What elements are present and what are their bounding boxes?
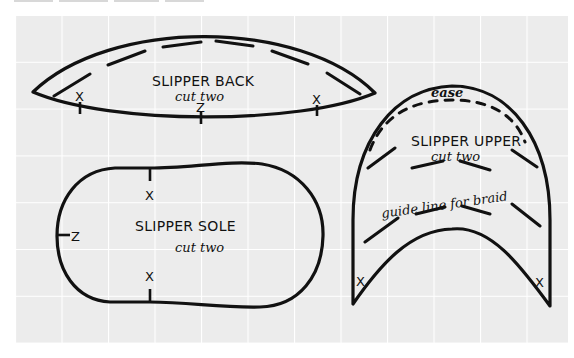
slipper-back-mark-x-left: X [75,89,84,104]
slipper-sole-mark-x-bottom: X [145,269,154,284]
slipper-back-subtitle: cut two [175,89,224,104]
slipper-sole-mark-z: Z [71,229,80,244]
slipper-back-mark-x-right: X [312,92,321,107]
slipper-sole-subtitle: cut two [175,240,224,255]
slipper-sole-title: SLIPPER SOLE [135,218,236,234]
slipper-upper-subtitle: cut two [431,149,480,164]
slipper-back-title: SLIPPER BACK [152,73,255,89]
grid-background [15,15,568,343]
slipper-upper-mark-x-left: X [356,274,365,289]
slipper-sole-mark-x-top: X [145,188,154,203]
slipper-upper-ease-label: ease [431,85,463,100]
slipper-upper-title: SLIPPER UPPER [411,133,521,149]
pattern-diagram: X Z X SLIPPER BACK cut two X Z X SLIPPER… [0,0,574,358]
slipper-upper-mark-x-right: X [535,275,544,290]
